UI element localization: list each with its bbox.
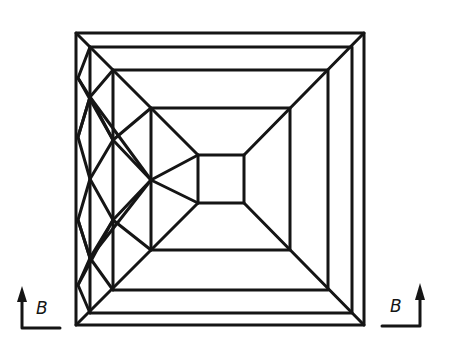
lattice-b — [113, 108, 151, 250]
field-indicator-left: B — [17, 286, 60, 328]
field-indicator-right: B — [382, 283, 425, 326]
arrow-up-icon — [415, 283, 425, 300]
field-label-left: B — [36, 298, 48, 318]
left-lattice — [78, 47, 198, 313]
lattice-c2 — [90, 140, 113, 220]
lattice-zig-cross — [78, 78, 113, 285]
field-label-right: B — [390, 296, 402, 316]
nested-squares-diagram: B B — [0, 0, 460, 362]
lattice-cross-1 — [90, 97, 151, 180]
corner-diagonals — [76, 33, 364, 325]
diagonal-top-right — [244, 33, 364, 155]
diagonal-bottom-right — [244, 203, 364, 325]
inner-square — [198, 155, 244, 203]
lattice-fan — [151, 155, 198, 203]
arrow-up-icon — [17, 286, 27, 302]
